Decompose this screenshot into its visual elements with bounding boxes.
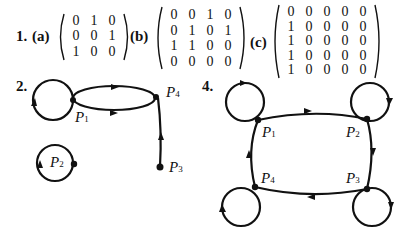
vertex-subscript: 1 bbox=[84, 114, 89, 124]
problem-1b-label: (b) bbox=[130, 28, 148, 45]
vertex-p4 bbox=[153, 94, 159, 100]
arrow-icon bbox=[158, 132, 164, 140]
matrix-cell: 0 bbox=[354, 63, 372, 78]
matrix-cell: 1 bbox=[282, 49, 300, 64]
label-p2-graph4: P2 bbox=[346, 124, 360, 141]
edge-p4-p1 bbox=[251, 120, 258, 187]
arrow-icon bbox=[388, 202, 394, 210]
vertex-p2 bbox=[71, 161, 77, 167]
matrix-cell: 0 bbox=[201, 54, 219, 70]
problem-1-number: 1. bbox=[16, 28, 27, 45]
problem-1a-label: (a) bbox=[32, 28, 50, 45]
matrix-cell: 1 bbox=[67, 45, 85, 60]
matrix-cell: 0 bbox=[282, 5, 300, 20]
matrix-cell: 0 bbox=[336, 63, 354, 78]
matrix-cell: 0 bbox=[219, 54, 237, 70]
matrix-cell: 1 bbox=[282, 20, 300, 35]
matrix-cell: 0 bbox=[165, 54, 183, 70]
left-paren bbox=[56, 13, 65, 61]
matrix-cell: 0 bbox=[318, 49, 336, 64]
matrix-cell: 0 bbox=[300, 5, 318, 20]
matrix-cell: 1 bbox=[165, 38, 183, 54]
arrow-icon bbox=[240, 80, 247, 86]
matrix-cell: 1 bbox=[282, 63, 300, 78]
label-p3-graph2: P3 bbox=[169, 159, 183, 176]
vertex-subscript: 1 bbox=[271, 129, 276, 139]
vertex-p1 bbox=[255, 117, 261, 123]
arrow-icon bbox=[111, 84, 119, 90]
label-p4-graph4: P4 bbox=[261, 170, 275, 187]
matrix-cell: 1 bbox=[85, 14, 103, 29]
matrix-cell: 0 bbox=[183, 7, 201, 23]
matrix-cell: 0 bbox=[336, 34, 354, 49]
matrix-cell: 0 bbox=[201, 38, 219, 54]
matrix-cell: 0 bbox=[85, 29, 103, 44]
right-paren bbox=[239, 6, 248, 70]
graph-4 bbox=[200, 80, 420, 237]
matrix-cell: 0 bbox=[300, 63, 318, 78]
self-loop-p3 bbox=[353, 188, 391, 226]
matrix-cell: 0 bbox=[318, 34, 336, 49]
vertex-subscript: 2 bbox=[59, 159, 64, 169]
left-paren bbox=[271, 4, 280, 79]
matrix-cell: 1 bbox=[219, 23, 237, 39]
matrix-cell: 0 bbox=[336, 5, 354, 20]
matrix-cell: 0 bbox=[103, 14, 121, 29]
matrix-cell: 1 bbox=[183, 23, 201, 39]
self-loop-p1 bbox=[33, 80, 73, 120]
matrix-cell: 0 bbox=[183, 54, 201, 70]
vertex-subscript: 2 bbox=[355, 129, 360, 139]
vertex-p1 bbox=[70, 97, 76, 103]
vertex-label: P bbox=[166, 84, 175, 100]
matrix-cell: 0 bbox=[165, 7, 183, 23]
matrix-cell: 0 bbox=[318, 5, 336, 20]
vertex-subscript: 4 bbox=[270, 175, 275, 185]
matrix-cell: 1 bbox=[183, 38, 201, 54]
edge-p2-p3 bbox=[367, 119, 372, 189]
matrix-cell: 0 bbox=[300, 20, 318, 35]
matrix-cell: 0 bbox=[103, 45, 121, 60]
edges-p1-p4 bbox=[73, 86, 155, 110]
matrix-1c: 0 0 0 0 0 1 0 0 0 0 1 0 0 0 0 1 0 0 0 0 … bbox=[271, 4, 383, 79]
vertex-p3 bbox=[364, 186, 370, 192]
self-loop-p4 bbox=[222, 188, 260, 226]
label-p1-graph2: P1 bbox=[75, 109, 89, 126]
matrix-cell: 0 bbox=[354, 34, 372, 49]
matrix-cell: 0 bbox=[201, 23, 219, 39]
label-p2-graph2: P2 bbox=[50, 154, 64, 171]
vertex-label: P bbox=[262, 124, 271, 140]
matrix-cell: 0 bbox=[354, 49, 372, 64]
matrix-cell: 1 bbox=[201, 7, 219, 23]
graph-2 bbox=[0, 80, 200, 230]
edge-p3-p4 bbox=[158, 98, 161, 167]
vertex-label: P bbox=[346, 124, 355, 140]
vertex-p3 bbox=[157, 164, 164, 171]
matrix-cell: 0 bbox=[336, 49, 354, 64]
arrow-icon bbox=[219, 204, 226, 212]
edge-p1-p2 bbox=[258, 114, 367, 120]
label-p1-graph4: P1 bbox=[262, 124, 276, 141]
matrix-cell: 1 bbox=[103, 29, 121, 44]
label-p4-graph2: P4 bbox=[166, 84, 180, 101]
self-loop-p1 bbox=[226, 83, 264, 121]
matrix-cell: 0 bbox=[219, 38, 237, 54]
matrix-cell: 1 bbox=[282, 34, 300, 49]
matrix-cell: 0 bbox=[67, 29, 85, 44]
matrix-cell: 0 bbox=[318, 20, 336, 35]
matrix-cell: 0 bbox=[354, 5, 372, 20]
vertex-p4 bbox=[252, 184, 258, 190]
vertex-subscript: 3 bbox=[355, 175, 360, 185]
matrix-cell: 0 bbox=[300, 49, 318, 64]
left-paren bbox=[154, 6, 163, 70]
problem-1c-label: (c) bbox=[250, 34, 267, 51]
vertex-p2 bbox=[364, 116, 370, 122]
vertex-label: P bbox=[75, 109, 84, 125]
vertex-subscript: 3 bbox=[178, 164, 183, 174]
arrow-icon bbox=[386, 98, 393, 106]
matrix-cell: 0 bbox=[300, 34, 318, 49]
self-loop-p2 bbox=[351, 83, 389, 121]
matrix-cell: 0 bbox=[354, 20, 372, 35]
vertex-label: P bbox=[50, 154, 59, 170]
matrix-1b: 0 0 1 0 0 1 0 1 1 1 0 0 0 0 0 0 bbox=[154, 6, 248, 70]
label-p3-graph4: P3 bbox=[346, 170, 360, 187]
